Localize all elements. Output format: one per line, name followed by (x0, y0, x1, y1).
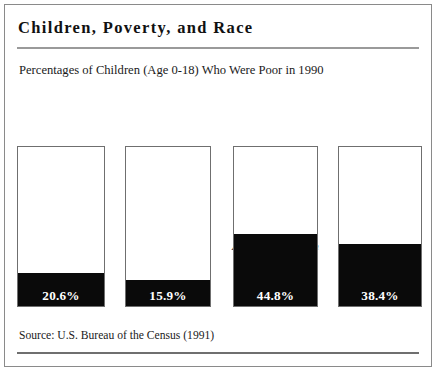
bar-group: African-AmericanChildren44.8% (233, 105, 318, 307)
bar-value-label: 15.9% (125, 288, 211, 304)
bar-value-label: 20.6% (17, 288, 105, 304)
chart-figure: Children, Poverty, and Race Percentages … (4, 4, 432, 367)
bar-outline: 44.8% (233, 146, 318, 307)
bar-value-label: 44.8% (233, 288, 318, 304)
bar-value-label: 38.4% (338, 288, 422, 304)
plot-area: All Children20.6%White Children15.9%Afri… (5, 5, 431, 366)
bar-group: All Children20.6% (17, 105, 105, 307)
bar-outline: 38.4% (338, 146, 422, 307)
bar-fill: 20.6% (17, 273, 105, 307)
bar-group: White Children15.9% (125, 105, 211, 307)
bar-outline: 20.6% (17, 146, 105, 307)
bar-fill: 38.4% (338, 244, 422, 307)
bar-fill: 15.9% (125, 280, 211, 307)
bar-group: HispanicChildren38.4% (338, 105, 422, 307)
bar-fill: 44.8% (233, 234, 318, 307)
bottom-divider (17, 352, 419, 354)
bar-outline: 15.9% (125, 146, 211, 307)
source-note: Source: U.S. Bureau of the Census (1991) (19, 329, 214, 342)
